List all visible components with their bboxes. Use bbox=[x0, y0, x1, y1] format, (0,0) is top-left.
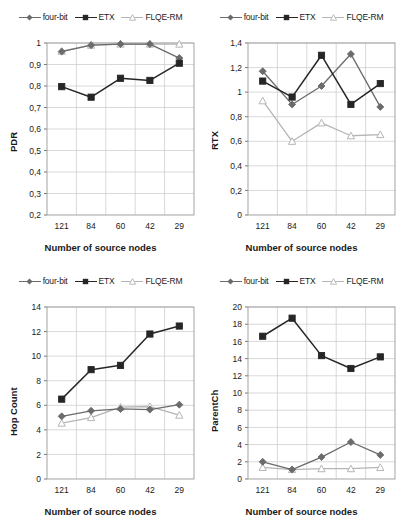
svg-text:1,4: 1,4 bbox=[230, 38, 242, 48]
svg-text:10: 10 bbox=[233, 388, 243, 398]
plot-area-pdr: 0,20,30,40,50,60,70,80,9112184604229 bbox=[0, 0, 201, 264]
svg-text:42: 42 bbox=[346, 221, 356, 231]
axis-label-x: Number of source nodes bbox=[0, 242, 201, 253]
svg-text:18: 18 bbox=[233, 319, 243, 329]
svg-text:1,2: 1,2 bbox=[230, 63, 242, 73]
svg-text:84: 84 bbox=[287, 485, 297, 495]
plot-area-hop-count: 0246810121412184604229 bbox=[0, 264, 201, 528]
svg-text:2: 2 bbox=[36, 450, 41, 460]
svg-text:121: 121 bbox=[55, 221, 69, 231]
axis-label-y: Hop Count bbox=[8, 387, 19, 436]
svg-text:16: 16 bbox=[233, 337, 243, 347]
svg-text:42: 42 bbox=[346, 485, 356, 495]
svg-text:8: 8 bbox=[237, 405, 242, 415]
svg-text:14: 14 bbox=[32, 302, 42, 312]
svg-text:10: 10 bbox=[32, 351, 42, 361]
svg-text:0: 0 bbox=[237, 474, 242, 484]
axis-label-y: RTX bbox=[209, 131, 220, 150]
axis-label-x: Number of source nodes bbox=[0, 506, 201, 517]
svg-text:1: 1 bbox=[36, 38, 41, 48]
plot-area-parentch: 0246810121416182012184604229 bbox=[201, 264, 402, 528]
svg-text:121: 121 bbox=[256, 221, 270, 231]
svg-text:0: 0 bbox=[237, 210, 242, 220]
svg-text:4: 4 bbox=[237, 440, 242, 450]
svg-text:0,6: 0,6 bbox=[29, 124, 41, 134]
svg-text:29: 29 bbox=[376, 221, 386, 231]
svg-text:29: 29 bbox=[175, 485, 185, 495]
svg-text:84: 84 bbox=[86, 485, 96, 495]
axis-label-y: ParentCh bbox=[209, 390, 220, 432]
svg-text:20: 20 bbox=[233, 302, 243, 312]
axis-label-x: Number of source nodes bbox=[201, 506, 402, 517]
svg-text:60: 60 bbox=[116, 485, 126, 495]
svg-text:0,9: 0,9 bbox=[29, 60, 41, 70]
plot-area-rtx: 00,20,40,60,811,21,412184604229 bbox=[201, 0, 402, 264]
svg-text:2: 2 bbox=[237, 457, 242, 467]
svg-text:0,2: 0,2 bbox=[230, 186, 242, 196]
svg-text:14: 14 bbox=[233, 354, 243, 364]
axis-label-y: PDR bbox=[8, 132, 19, 152]
svg-text:60: 60 bbox=[317, 485, 327, 495]
svg-text:0,3: 0,3 bbox=[29, 189, 41, 199]
svg-text:121: 121 bbox=[256, 485, 270, 495]
figure-grid: four-bit ETX FLQE-RM 0,20,30,40,50,60,70… bbox=[0, 0, 402, 528]
chart-panel-parentch: four-bit ETX FLQE-RM 0246810121416182012… bbox=[201, 264, 402, 528]
svg-text:4: 4 bbox=[36, 425, 41, 435]
svg-text:0,5: 0,5 bbox=[29, 146, 41, 156]
svg-text:6: 6 bbox=[36, 400, 41, 410]
svg-text:60: 60 bbox=[317, 221, 327, 231]
svg-text:29: 29 bbox=[175, 221, 185, 231]
svg-text:0: 0 bbox=[36, 474, 41, 484]
axis-label-x: Number of source nodes bbox=[201, 242, 402, 253]
svg-text:84: 84 bbox=[86, 221, 96, 231]
svg-text:12: 12 bbox=[32, 327, 42, 337]
svg-text:29: 29 bbox=[376, 485, 386, 495]
svg-text:6: 6 bbox=[237, 423, 242, 433]
svg-text:42: 42 bbox=[145, 221, 155, 231]
chart-panel-pdr: four-bit ETX FLQE-RM 0,20,30,40,50,60,70… bbox=[0, 0, 201, 264]
chart-panel-hop-count: four-bit ETX FLQE-RM 0246810121412184604… bbox=[0, 264, 201, 528]
chart-panel-rtx: four-bit ETX FLQE-RM 00,20,40,60,811,21,… bbox=[201, 0, 402, 264]
svg-text:84: 84 bbox=[287, 221, 297, 231]
svg-text:1: 1 bbox=[237, 87, 242, 97]
svg-text:0,8: 0,8 bbox=[230, 112, 242, 122]
svg-text:0,8: 0,8 bbox=[29, 81, 41, 91]
svg-text:0,4: 0,4 bbox=[29, 167, 41, 177]
svg-text:12: 12 bbox=[233, 371, 243, 381]
svg-text:8: 8 bbox=[36, 376, 41, 386]
svg-text:0,2: 0,2 bbox=[29, 210, 41, 220]
svg-text:60: 60 bbox=[116, 221, 126, 231]
svg-text:121: 121 bbox=[55, 485, 69, 495]
svg-text:42: 42 bbox=[145, 485, 155, 495]
svg-text:0,6: 0,6 bbox=[230, 136, 242, 146]
svg-text:0,4: 0,4 bbox=[230, 161, 242, 171]
svg-text:0,7: 0,7 bbox=[29, 103, 41, 113]
